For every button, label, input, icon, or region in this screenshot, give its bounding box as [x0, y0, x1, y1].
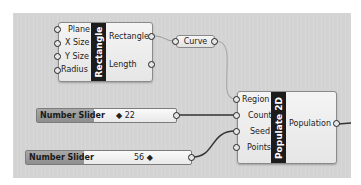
input-radius[interactable]: Radius: [61, 65, 88, 74]
port-radius[interactable]: [54, 67, 61, 74]
output-length[interactable]: Length: [109, 60, 137, 69]
port-y-size[interactable]: [54, 53, 61, 60]
output-population[interactable]: Population: [289, 119, 331, 128]
port-seed[interactable]: [233, 128, 240, 135]
input-y-size[interactable]: Y Size: [65, 52, 89, 61]
output-rectangle[interactable]: Rectangle: [109, 32, 149, 41]
populate-2d-component[interactable]: Populate 2D Region Count Seed Points Pop…: [237, 91, 337, 164]
port-curve-out[interactable]: [211, 38, 218, 45]
port-slider-seed-out[interactable]: [188, 154, 195, 161]
curve-param[interactable]: Curve: [176, 35, 215, 48]
input-count[interactable]: Count: [248, 111, 272, 120]
port-slider-count-out[interactable]: [173, 112, 180, 119]
input-points[interactable]: Points: [247, 143, 271, 152]
component-title: Rectangle: [94, 27, 104, 78]
number-slider-count[interactable]: Number Slider ◆ 22: [36, 108, 177, 123]
port-population-out[interactable]: [333, 120, 340, 127]
rectangle-component[interactable]: Rectangle Plane X Size Y Size Radius Rec…: [58, 22, 153, 82]
port-x-size[interactable]: [54, 40, 61, 47]
input-seed[interactable]: Seed: [250, 127, 270, 136]
port-plane[interactable]: [54, 26, 61, 33]
slider-label: Number Slider: [26, 151, 84, 164]
port-region[interactable]: [233, 96, 240, 103]
slider-value[interactable]: ◆ 22: [116, 109, 135, 122]
slider-label: Number Slider: [37, 109, 94, 122]
number-slider-seed[interactable]: Number Slider 56 ◆: [25, 150, 192, 165]
port-points[interactable]: [233, 144, 240, 151]
component-title: Populate 2D: [274, 96, 284, 158]
input-plane[interactable]: Plane: [68, 25, 90, 34]
input-x-size[interactable]: X Size: [65, 38, 89, 47]
port-count[interactable]: [233, 112, 240, 119]
slider-value[interactable]: 56 ◆: [134, 151, 153, 164]
component-title-band: Rectangle: [91, 23, 106, 81]
component-title-band: Populate 2D: [271, 92, 286, 163]
port-length-out[interactable]: [148, 61, 155, 68]
input-region[interactable]: Region: [242, 95, 269, 104]
port-rectangle-out[interactable]: [148, 33, 155, 40]
port-curve-in[interactable]: [172, 38, 179, 45]
